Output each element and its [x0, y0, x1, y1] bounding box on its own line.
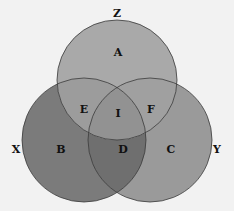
set-label-z: Z [113, 7, 121, 20]
set-label-x: X [12, 143, 21, 156]
region-label-b: B [56, 143, 65, 156]
region-label-a: A [113, 46, 123, 59]
region-label-i: I [115, 107, 120, 120]
region-label-c: C [167, 143, 176, 156]
set-label-y: Y [212, 143, 221, 156]
region-label-d: D [118, 143, 128, 156]
region-label-e: E [80, 103, 88, 116]
venn-diagram: Z X Y A B C D E F I [0, 0, 234, 211]
region-label-f: F [147, 103, 155, 116]
venn-svg: Z X Y A B C D E F I [0, 0, 234, 211]
